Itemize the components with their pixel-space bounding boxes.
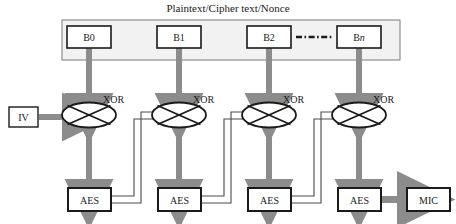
xor-gate-1: XOR bbox=[62, 94, 124, 128]
block-b1: B1 bbox=[157, 26, 201, 48]
aes-block-3-label: AES bbox=[260, 195, 279, 206]
block-bn-label: Bn bbox=[353, 32, 365, 43]
aes-block-1: AES bbox=[68, 188, 111, 211]
block-b1-label: B1 bbox=[173, 32, 185, 43]
xor-gate-4-label: XOR bbox=[373, 94, 394, 105]
iv-block: IV bbox=[9, 107, 38, 127]
xor-gate-3: XOR bbox=[242, 94, 304, 128]
diagram-title: Plaintext/Cipher text/Nonce bbox=[166, 2, 289, 14]
block-b2: B2 bbox=[247, 26, 291, 48]
diagram-canvas: Plaintext/Cipher text/Nonce B0 B1 bbox=[0, 0, 456, 224]
feedback-arrows bbox=[111, 112, 337, 203]
mic-label: MIC bbox=[419, 195, 438, 206]
aes-block-2: AES bbox=[158, 188, 201, 211]
iv-label: IV bbox=[18, 112, 29, 123]
aes-block-1-label: AES bbox=[80, 195, 99, 206]
aes-block-3: AES bbox=[248, 188, 291, 211]
block-b2-label: B2 bbox=[263, 32, 275, 43]
mic-block: MIC bbox=[407, 188, 450, 211]
block-b0-label: B0 bbox=[83, 32, 95, 43]
aes-block-4: AES bbox=[338, 188, 381, 211]
block-b0: B0 bbox=[67, 26, 111, 48]
aes-block-2-label: AES bbox=[170, 195, 189, 206]
xor-gate-1-label: XOR bbox=[103, 94, 124, 105]
xor-gate-2-label: XOR bbox=[193, 94, 214, 105]
xor-gate-3-label: XOR bbox=[283, 94, 304, 105]
block-bn: Bn bbox=[337, 26, 381, 48]
aes-cbc-mac-diagram: Plaintext/Cipher text/Nonce B0 B1 bbox=[0, 0, 456, 224]
xor-gate-2: XOR bbox=[152, 94, 214, 128]
xor-gate-4: XOR bbox=[332, 94, 394, 128]
aes-block-4-label: AES bbox=[350, 195, 369, 206]
